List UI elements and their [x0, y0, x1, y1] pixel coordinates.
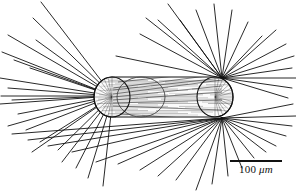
scale-bar: 100 μm — [228, 160, 284, 175]
figure-root: 100 μm — [0, 0, 296, 192]
scale-bar-rule — [230, 160, 282, 162]
scale-bar-label: 100 μm — [228, 163, 284, 175]
scale-bar-value: 100 — [239, 163, 256, 175]
scale-bar-unit: μm — [256, 163, 273, 175]
